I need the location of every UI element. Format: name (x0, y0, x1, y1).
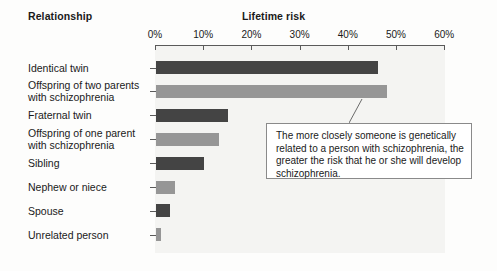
bar (156, 228, 161, 241)
row-label: Offspring of two parents with schizophre… (28, 79, 139, 104)
bar (156, 133, 219, 146)
x-axis-tick-label: 0% (148, 29, 162, 40)
row-label: Identical twin (28, 62, 89, 75)
callout-box: The more closely someone is genetically … (266, 123, 472, 179)
bar (156, 109, 228, 122)
bar (156, 61, 378, 74)
bar (156, 204, 170, 217)
bar (156, 157, 204, 170)
row-label: Offspring of one parent with schizophren… (28, 127, 135, 152)
column-header-relationship: Relationship (28, 10, 92, 22)
x-axis-tick (155, 45, 156, 50)
x-axis-tick (396, 45, 397, 50)
x-axis-tick-label: 30% (290, 29, 310, 40)
row-label: Spouse (28, 205, 64, 218)
callout-text: The more closely someone is genetically … (276, 130, 464, 180)
x-axis-tick (348, 45, 349, 50)
x-axis-tick-label: 60% (434, 29, 454, 40)
x-axis-tick (300, 45, 301, 50)
x-axis-tick-label: 40% (338, 29, 358, 40)
row-label: Nephew or niece (28, 181, 107, 194)
bar (156, 181, 175, 194)
x-axis-tick (444, 45, 445, 50)
x-axis-tick (203, 45, 204, 50)
x-axis-tick-label: 10% (193, 29, 213, 40)
x-axis-tick-label: 20% (241, 29, 261, 40)
schizophrenia-risk-chart: Relationship Lifetime risk 0%10%20%30%40… (0, 0, 497, 271)
column-header-lifetime-risk: Lifetime risk (242, 10, 305, 22)
x-axis-tick-label: 50% (386, 29, 406, 40)
row-label: Sibling (28, 157, 60, 170)
row-label: Fraternal twin (28, 109, 92, 122)
x-axis-tick (251, 45, 252, 50)
row-label: Unrelated person (28, 229, 109, 242)
callout-leader-line (349, 99, 363, 124)
bar (156, 85, 387, 98)
